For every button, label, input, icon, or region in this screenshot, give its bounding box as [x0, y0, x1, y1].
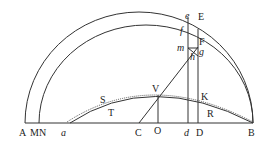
inner-arc [39, 25, 253, 123]
diagram: A M N a C O d D B e E f F m g h V K S T … [0, 0, 273, 149]
label-R: R [207, 108, 214, 119]
curve-aVKB [70, 97, 253, 124]
label-e: e [185, 10, 190, 21]
label-A: A [19, 127, 27, 138]
label-d: d [184, 127, 190, 138]
label-f: f [180, 25, 184, 36]
label-N: N [39, 127, 46, 138]
label-S: S [100, 94, 106, 105]
label-V: V [152, 83, 160, 94]
label-O: O [154, 125, 161, 136]
label-K: K [201, 91, 209, 102]
label-M: M [30, 127, 39, 138]
label-h: h [190, 51, 195, 62]
label-E: E [198, 11, 204, 22]
label-g: g [199, 46, 204, 57]
curve-aVKB-dotted [67, 95, 253, 122]
label-B: B [248, 127, 255, 138]
label-m: m [177, 42, 184, 53]
label-C: C [135, 127, 142, 138]
geometry-figure: A M N a C O d D B e E f F m g h V K S T … [0, 0, 273, 149]
label-D: D [196, 127, 203, 138]
label-a: a [61, 127, 66, 138]
label-T: T [108, 107, 114, 118]
